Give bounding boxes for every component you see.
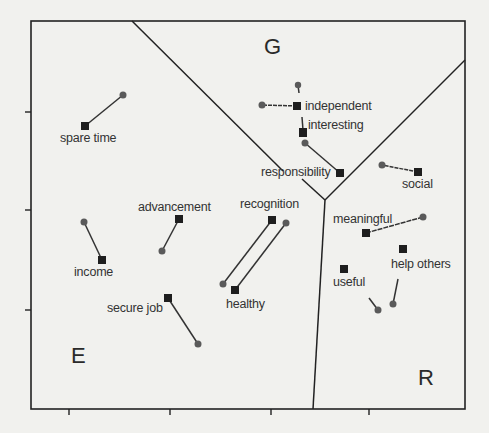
point-label-healthy: healthy (226, 298, 265, 311)
point-label-responsibility: responsibility (261, 166, 330, 179)
point-label-interesting: interesting (308, 119, 363, 132)
plot-frame (31, 21, 465, 409)
point-label-recognition: recognition (240, 198, 299, 211)
region-label-r: R (418, 367, 434, 389)
point-label-advancement: advancement (138, 201, 211, 214)
point-label-useful: useful (333, 276, 365, 289)
point-label-income: income (74, 266, 113, 279)
triangular-plot (0, 0, 489, 433)
point-label-spare-time: spare time (60, 132, 116, 145)
point-label-meaningful: meaningful (333, 213, 392, 226)
point-label-secure-job: secure job (107, 302, 163, 315)
point-label-independent: independent (305, 100, 372, 113)
point-label-social: social (402, 178, 433, 191)
x-axis-ticks (69, 409, 369, 415)
y-axis-ticks (25, 112, 31, 310)
point-label-help-others: help others (391, 258, 451, 271)
region-label-e: E (71, 345, 86, 367)
region-label-g: G (264, 36, 281, 58)
